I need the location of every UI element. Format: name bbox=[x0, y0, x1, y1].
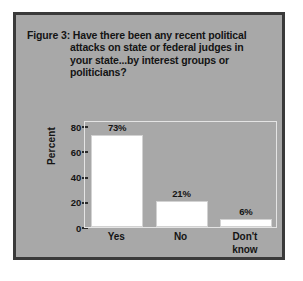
y-tick-label: 60 bbox=[43, 147, 81, 158]
chart-title-line-2: attacks on state or federal judges in bbox=[27, 41, 275, 53]
bar bbox=[220, 219, 272, 227]
bar bbox=[156, 201, 208, 227]
chart-title: Figure 3: Have there been any recent pol… bbox=[27, 29, 275, 79]
bar-value-label: 21% bbox=[142, 188, 222, 199]
chart-title-line-1: Figure 3: Have there been any recent pol… bbox=[27, 29, 275, 41]
x-category-label: Don'tknow bbox=[205, 231, 285, 256]
plot-wrapper: Percent 020406080 73%21%6% YesNoDon'tkno… bbox=[27, 101, 277, 253]
x-category-label-line: Don't bbox=[205, 231, 285, 244]
y-tick-label: 80 bbox=[43, 122, 81, 133]
bar-value-label: 6% bbox=[206, 206, 286, 217]
bar-group: 21% bbox=[156, 122, 208, 227]
bar-group: 6% bbox=[220, 122, 272, 227]
bars-container: 73%21%6% bbox=[85, 122, 276, 227]
bar bbox=[91, 135, 143, 227]
plot-area: 73%21%6% bbox=[84, 121, 277, 228]
figure-container: Figure 3: Have there been any recent pol… bbox=[0, 0, 303, 281]
bar-group: 73% bbox=[91, 122, 143, 227]
chart-title-line-3: your state...by interest groups or bbox=[27, 54, 275, 66]
x-category-label-line: know bbox=[205, 244, 285, 257]
chart-title-line-4: politicians? bbox=[27, 66, 275, 78]
y-tick-label: 20 bbox=[43, 197, 81, 208]
bar-value-label: 73% bbox=[77, 122, 157, 133]
figure-frame: Figure 3: Have there been any recent pol… bbox=[13, 12, 285, 260]
y-tick-label: 40 bbox=[43, 172, 81, 183]
